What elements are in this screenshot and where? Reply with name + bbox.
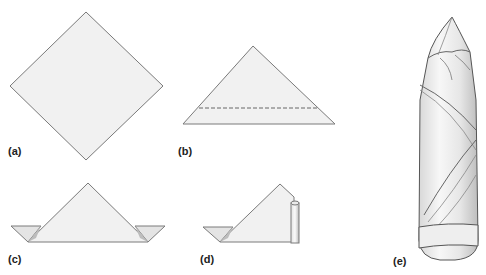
napkin-folding-diagram: (a) (b) (c) (d) (e) [0,0,486,275]
step-d-rolling [203,184,299,243]
step-e-rolled-napkin [419,17,478,260]
step-b-label: (b) [178,145,192,157]
step-c-folded [11,183,165,242]
step-a-label: (a) [8,145,21,157]
step-e-label: (e) [393,255,406,267]
diagram-canvas [0,0,486,275]
step-b-triangle [183,46,335,124]
step-c-label: (c) [8,253,21,265]
step-d-label: (d) [200,253,214,265]
step-a-diamond [10,12,163,160]
